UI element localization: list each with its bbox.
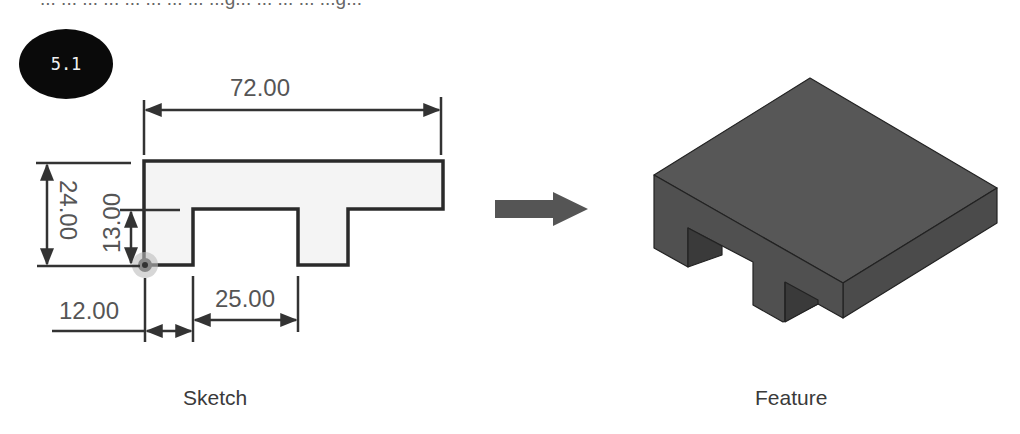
dimension-13-label: 13.00 — [98, 193, 125, 253]
dimension-12-label: 12.00 — [59, 297, 119, 324]
feature-caption: Feature — [755, 386, 827, 410]
dimension-72-label: 72.00 — [230, 74, 290, 101]
sketch-caption: Sketch — [183, 386, 247, 410]
dimension-72 — [144, 97, 441, 155]
dimension-25-label: 25.00 — [215, 285, 275, 312]
extruded-feature-model — [654, 78, 997, 322]
sketch-profile — [144, 161, 443, 265]
dimension-24-label: 24.00 — [55, 180, 82, 240]
diagram-canvas: 72.00 24.00 13.00 12.00 25.00 — [0, 0, 1020, 434]
right-arrow-icon — [495, 192, 588, 226]
